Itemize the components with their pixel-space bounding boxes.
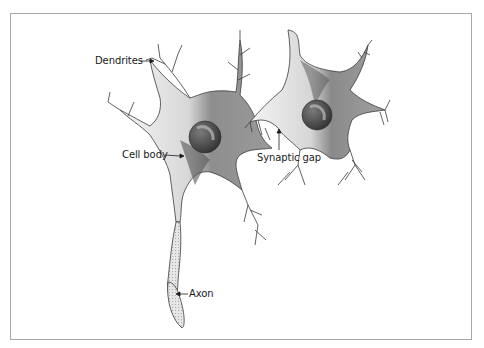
neuron-illustration (0, 0, 484, 348)
neuron-left (108, 30, 272, 328)
label-synaptic-gap: Synaptic gap (257, 152, 321, 164)
label-cell-body: Cell body (122, 149, 168, 161)
label-dendrites: Dendrites (95, 55, 143, 67)
label-axon: Axon (189, 288, 214, 300)
